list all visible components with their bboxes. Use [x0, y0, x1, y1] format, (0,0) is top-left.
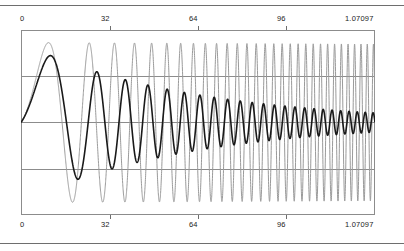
bottom-divider-rule [0, 243, 404, 244]
axis-bottom-tick-mark-32 [110, 215, 111, 219]
axis-top-tick-label-96: 96 [277, 14, 286, 23]
axis-bottom-tick-mark-64 [198, 215, 199, 219]
axis-bottom-tick-label-96: 96 [277, 220, 286, 229]
axis-bottom-tick-label-max: 1.07097 [345, 220, 374, 229]
axis-bottom-tick-label-32: 32 [101, 220, 110, 229]
axis-top-tick-label-64: 64 [189, 14, 198, 23]
curve-canvas [21, 30, 375, 215]
top-divider-rule [0, 5, 404, 6]
axis-bottom-tick-label-64: 64 [189, 220, 198, 229]
axis-bottom-tick-label-0: 0 [20, 220, 24, 229]
series-aliased-carrier-path [21, 43, 375, 203]
axis-top-tick-label-32: 32 [101, 14, 110, 23]
axis-bottom-tick-mark-96 [286, 215, 287, 219]
axis-top-tick-label-0: 0 [20, 14, 24, 23]
axis-top-tick-label-max: 1.07097 [345, 14, 374, 23]
chart-figure: 0 32 64 96 1.07097 0 32 64 96 1.07097 [0, 0, 404, 251]
plot-area [21, 30, 375, 215]
